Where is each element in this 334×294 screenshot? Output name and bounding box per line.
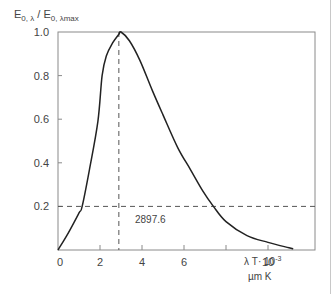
x-tick-label: 4 xyxy=(139,256,145,268)
x-tick-label: 2 xyxy=(97,256,103,268)
y-axis-label: E0, λ / E0, λmax xyxy=(14,8,79,23)
x-tick-label: 6 xyxy=(181,256,187,268)
x-tick-label: 0 xyxy=(57,256,63,268)
y-tick-label: 0.8 xyxy=(34,70,49,82)
chart: 0.20.40.60.81.0 024610 E0, λ / E0, λmax … xyxy=(0,0,334,294)
y-tick-label: 0.2 xyxy=(34,200,49,212)
x-axis-unit: µm K xyxy=(248,271,272,282)
spectral-curve xyxy=(58,32,293,250)
wien-constant-label: 2897.6 xyxy=(135,214,166,225)
plot-frame xyxy=(58,32,315,250)
y-tick-label: 0.6 xyxy=(34,113,49,125)
x-ticks: 024610 xyxy=(57,245,274,268)
y-tick-label: 1.0 xyxy=(34,26,49,38)
x-axis-label: λ T· 10-3 xyxy=(244,255,281,267)
y-tick-label: 0.4 xyxy=(34,157,49,169)
annotations xyxy=(58,32,315,250)
